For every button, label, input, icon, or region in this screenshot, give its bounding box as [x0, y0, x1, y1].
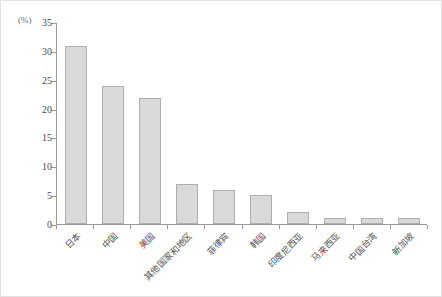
- bar-slot: [354, 23, 391, 224]
- y-axis-tick-label: 25: [42, 76, 52, 86]
- x-axis-category-label: 中国: [100, 231, 121, 252]
- bar: [213, 190, 235, 224]
- bar: [250, 195, 272, 224]
- x-label-slot: 新加坡: [391, 229, 428, 295]
- bar-slot: [94, 23, 131, 224]
- x-axis-category-labels: 日本中国美国其他国家和地区菲律宾韩国印度尼西亚马来西亚中国台湾新加坡: [57, 229, 428, 295]
- bar: [324, 218, 346, 224]
- bar: [176, 184, 198, 224]
- y-axis-tick-label: 10: [42, 162, 52, 172]
- x-axis-category-label: 美国: [137, 231, 158, 252]
- bar-slot: [280, 23, 317, 224]
- bar: [139, 98, 161, 224]
- bar-slot: [205, 23, 242, 224]
- bar-chart-figure: (%) 05101520253035 日本中国美国其他国家和地区菲律宾韩国印度尼…: [0, 0, 442, 297]
- y-axis-tick-label: 15: [42, 133, 52, 143]
- bar: [398, 218, 420, 224]
- x-label-slot: 其他国家和地区: [168, 229, 205, 295]
- y-axis-tick-label: 35: [42, 18, 52, 28]
- y-axis-tick-label: 20: [42, 105, 52, 115]
- bar-slot: [131, 23, 168, 224]
- bar-slot: [168, 23, 205, 224]
- bar: [65, 46, 87, 224]
- bar: [102, 86, 124, 224]
- x-label-slot: 马来西亚: [317, 229, 354, 295]
- bars-layer: [57, 23, 427, 224]
- y-axis-unit-label: (%): [18, 15, 32, 25]
- bar-slot: [317, 23, 354, 224]
- y-axis-tick-label: 0: [47, 220, 52, 230]
- bar-slot: [57, 23, 94, 224]
- x-label-slot: 印度尼西亚: [280, 229, 317, 295]
- bar-slot: [391, 23, 428, 224]
- x-label-slot: 中国台湾: [354, 229, 391, 295]
- x-label-slot: 中国: [94, 229, 131, 295]
- y-axis-tick-label: 5: [47, 191, 52, 201]
- x-axis-category-label: 菲律宾: [205, 231, 232, 258]
- x-axis-category-label: 新加坡: [390, 231, 417, 258]
- x-axis-category-label: 日本: [63, 231, 84, 252]
- bar: [287, 212, 309, 224]
- x-label-slot: 菲律宾: [205, 229, 242, 295]
- bar: [361, 218, 383, 224]
- x-label-slot: 日本: [57, 229, 94, 295]
- plot-area: 05101520253035: [56, 23, 427, 225]
- x-axis-category-label: 韩国: [248, 231, 269, 252]
- bar-slot: [243, 23, 280, 224]
- y-axis-tick-label: 30: [42, 47, 52, 57]
